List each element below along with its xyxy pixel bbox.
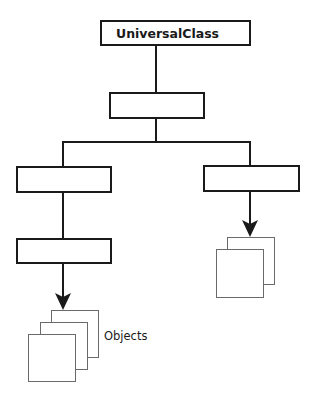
class-node-middle xyxy=(110,93,204,118)
object-sheet-icon xyxy=(29,335,76,382)
class-box-left-1 xyxy=(17,167,111,192)
class-node-universal: UniversalClass xyxy=(101,21,250,45)
arrow-right-instantiate xyxy=(242,191,258,237)
connectors xyxy=(62,45,251,239)
class-label-universal: UniversalClass xyxy=(116,26,219,41)
objects-label: Objects xyxy=(104,329,147,343)
class-box-left-2 xyxy=(17,239,111,263)
arrow-left-instantiate xyxy=(55,263,71,310)
object-stack-left: Objects xyxy=(29,311,148,382)
class-node-right-1 xyxy=(204,166,299,191)
object-sheet-icon xyxy=(217,250,264,298)
class-node-left-1 xyxy=(17,167,111,192)
class-box-right-1 xyxy=(204,166,299,191)
class-node-left-2 xyxy=(17,239,111,263)
object-stack-right xyxy=(217,238,275,298)
class-hierarchy-diagram: UniversalClass Objects xyxy=(0,0,314,402)
class-box-middle xyxy=(110,93,204,118)
